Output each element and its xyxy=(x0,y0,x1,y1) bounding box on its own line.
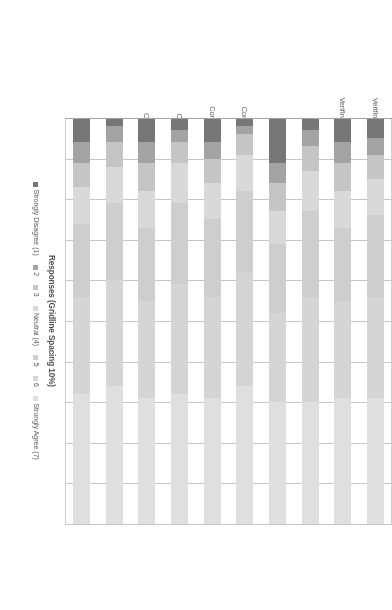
legend-item: Strongly Agree (7) xyxy=(32,396,40,460)
bar-segment xyxy=(138,118,155,142)
bar-segment xyxy=(269,183,286,211)
bar-segment xyxy=(236,155,253,192)
bar-segment xyxy=(269,163,286,183)
bar-segment xyxy=(73,297,90,394)
bar-segment xyxy=(73,163,90,187)
bar-segment xyxy=(106,118,123,126)
bar-segment xyxy=(236,191,253,272)
bar-segment xyxy=(334,228,351,301)
bar-row xyxy=(171,118,188,524)
bar-segment xyxy=(73,224,90,297)
legend-label: 3 xyxy=(32,293,40,297)
bar-segment xyxy=(302,146,319,170)
legend-label: 5 xyxy=(32,363,40,367)
bar-row xyxy=(334,118,351,524)
legend-item: 6 xyxy=(32,376,40,387)
legend-label: 2 xyxy=(32,272,40,276)
bar-segment xyxy=(367,179,384,216)
bar-segment xyxy=(106,126,123,142)
bar-segment xyxy=(302,130,319,146)
bar-segment xyxy=(367,138,384,154)
bar-segment xyxy=(73,118,90,142)
bar-segment xyxy=(171,118,188,130)
legend-swatch xyxy=(34,376,39,381)
bar-row xyxy=(138,118,155,524)
bar-row xyxy=(236,118,253,524)
bar-segment xyxy=(171,163,188,204)
chart-legend: Strongly Disagree (1)23Neutral (4)56Stro… xyxy=(32,118,40,524)
bar-segment xyxy=(171,203,188,284)
bar-segment xyxy=(236,118,253,126)
legend-swatch xyxy=(34,182,39,187)
bar-segment xyxy=(334,301,351,398)
bar-segment xyxy=(302,402,319,524)
legend-item: 2 xyxy=(32,265,40,276)
bar-row xyxy=(106,118,123,524)
legend-swatch xyxy=(34,355,39,360)
bar-segment xyxy=(171,142,188,162)
plot-area xyxy=(65,118,392,524)
legend-label: 6 xyxy=(32,383,40,387)
bar-segment xyxy=(367,297,384,399)
legend-label: Neutral (4) xyxy=(32,313,40,346)
bar-segment xyxy=(269,244,286,313)
bar-segment xyxy=(138,163,155,191)
bar-segment xyxy=(334,142,351,162)
category-axis-line xyxy=(65,118,392,119)
bar-segment xyxy=(367,215,384,296)
legend-swatch xyxy=(34,306,39,311)
bar-segment xyxy=(236,126,253,134)
bar-segment xyxy=(171,130,188,142)
legend-swatch xyxy=(34,285,39,290)
legend-swatch xyxy=(34,265,39,270)
bar-row xyxy=(73,118,90,524)
legend-item: 3 xyxy=(32,285,40,296)
bar-segment xyxy=(367,398,384,524)
bar-segment xyxy=(171,394,188,524)
bar-segment xyxy=(73,187,90,224)
bar-row xyxy=(269,118,286,524)
bar-segment xyxy=(73,394,90,524)
bar-segment xyxy=(269,211,286,243)
bar-segment xyxy=(106,386,123,524)
bar-segment xyxy=(106,142,123,166)
bar-segment xyxy=(236,272,253,386)
bar-segment xyxy=(334,398,351,524)
value-axis-title: Responses (Gridline Spacing 10%) xyxy=(47,118,56,524)
bar-segment xyxy=(106,167,123,204)
bar-segment xyxy=(269,118,286,163)
bar-segment xyxy=(236,134,253,154)
bar-segment xyxy=(204,398,221,524)
legend-swatch xyxy=(34,396,39,401)
bar-segment xyxy=(334,163,351,191)
bar-segment xyxy=(367,155,384,179)
bar-segment xyxy=(334,118,351,142)
bar-segment xyxy=(138,301,155,398)
bar-row xyxy=(302,118,319,524)
bar-segment xyxy=(269,402,286,524)
bar-segment xyxy=(106,280,123,386)
bar-segment xyxy=(138,142,155,162)
figure-rotation-wrapper: VerifIncreasesConfidence(2011)VerifIncre… xyxy=(0,0,392,610)
gridline xyxy=(65,524,392,525)
bar-segment xyxy=(302,211,319,296)
bar-segment xyxy=(138,228,155,301)
bar-segment xyxy=(204,297,221,399)
bar-segment xyxy=(106,203,123,280)
legend-item: Strongly Disagree (1) xyxy=(32,182,40,256)
bar-segment xyxy=(138,398,155,524)
bar-segment xyxy=(269,313,286,402)
bar-segment xyxy=(204,142,221,158)
bar-segment xyxy=(302,118,319,130)
bar-row xyxy=(367,118,384,524)
scanned-page: VerifIncreasesConfidence(2011)VerifIncre… xyxy=(0,0,392,610)
bar-segment xyxy=(302,297,319,403)
legend-label: Strongly Agree (7) xyxy=(32,403,40,459)
bar-segment xyxy=(204,219,221,296)
bar-segment xyxy=(138,191,155,228)
bar-segment xyxy=(73,142,90,162)
bar-segment xyxy=(367,118,384,138)
bar-segment xyxy=(204,118,221,142)
bar-segment xyxy=(302,171,319,212)
bar-row xyxy=(204,118,221,524)
